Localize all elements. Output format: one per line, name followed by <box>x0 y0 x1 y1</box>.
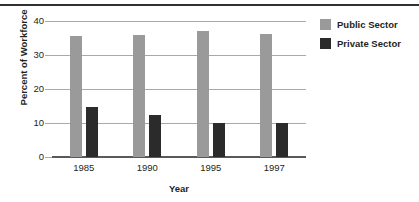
bar-public-sector-1990 <box>133 35 145 157</box>
bar-public-sector-1995 <box>197 31 209 157</box>
bar-private-sector-1985 <box>86 107 98 157</box>
legend-label: Public Sector <box>337 19 398 30</box>
x-axis-tick-label-1997: 1997 <box>246 162 302 173</box>
bar-private-sector-1990 <box>149 115 161 157</box>
y-axis-tick-mark <box>45 21 52 22</box>
x-axis-title: Year <box>52 183 306 194</box>
bar-public-sector-1997 <box>260 34 272 157</box>
bar-private-sector-1997 <box>276 123 288 157</box>
x-axis-tick-label-1995: 1995 <box>183 162 239 173</box>
legend-item-public-sector[interactable]: Public Sector <box>320 19 419 30</box>
y-axis-tick-mark <box>45 55 52 56</box>
legend-swatch-icon <box>320 19 331 30</box>
bar-public-sector-1985 <box>70 36 82 157</box>
gridline <box>52 21 306 22</box>
y-axis-tick-mark <box>45 123 52 124</box>
y-axis-tick-mark <box>45 89 52 90</box>
chart-figure: 010203040 Percent of Workforce 198519901… <box>0 0 419 202</box>
legend-item-private-sector[interactable]: Private Sector <box>320 38 419 49</box>
plot-area <box>52 21 306 157</box>
y-axis-tick-mark <box>45 157 52 158</box>
y-axis-title: Percent of Workforce <box>18 0 29 128</box>
x-axis-tick-label-1990: 1990 <box>119 162 175 173</box>
legend-label: Private Sector <box>337 38 401 49</box>
chart-legend: Public SectorPrivate Sector <box>320 19 419 57</box>
legend-swatch-icon <box>320 38 331 49</box>
bar-private-sector-1995 <box>213 123 225 157</box>
y-axis-tick-label: 0 <box>24 152 44 162</box>
x-axis-tick-label-1985: 1985 <box>56 162 112 173</box>
top-divider-rule <box>0 4 419 6</box>
